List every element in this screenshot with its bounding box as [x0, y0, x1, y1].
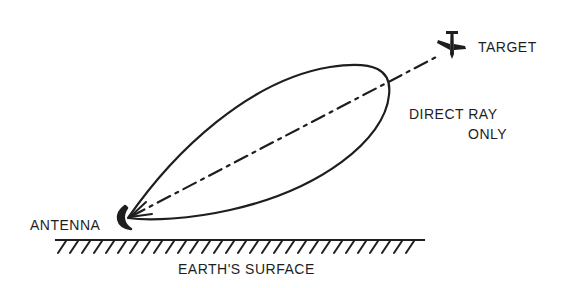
- direct-ray-label-line2: ONLY: [468, 127, 507, 141]
- target-label: TARGET: [478, 40, 537, 54]
- airplane-icon: [437, 31, 466, 59]
- ground-hatching: [58, 241, 414, 253]
- earth-surface-label: EARTH'S SURFACE: [178, 262, 315, 276]
- antenna-beam-lobe: [128, 65, 389, 219]
- antenna-label: ANTENNA: [30, 218, 100, 232]
- direct-ray-label-line1: DIRECT RAY: [409, 107, 498, 121]
